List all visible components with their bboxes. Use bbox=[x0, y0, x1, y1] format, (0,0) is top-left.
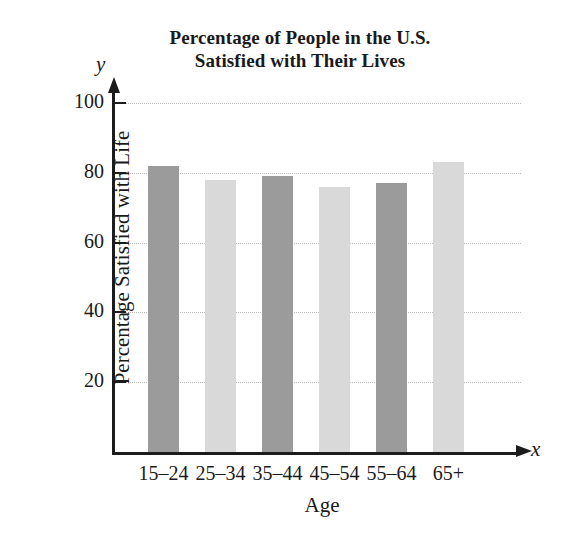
y-tick-label: 40 bbox=[48, 299, 104, 322]
x-axis-line bbox=[112, 452, 521, 455]
bar bbox=[376, 183, 407, 452]
chart-title: Percentage of People in the U.S. Satisfi… bbox=[120, 26, 480, 72]
x-tick-label: 65+ bbox=[414, 462, 484, 485]
bar bbox=[319, 187, 350, 452]
chart-title-line-1: Percentage of People in the U.S. bbox=[120, 26, 480, 49]
y-tick-label: 60 bbox=[48, 230, 104, 253]
bar bbox=[262, 176, 293, 452]
y-tick-label: 20 bbox=[48, 369, 104, 392]
y-tick-label: 80 bbox=[48, 160, 104, 183]
chart-title-line-2: Satisfied with Their Lives bbox=[120, 49, 480, 72]
bar bbox=[148, 166, 179, 452]
y-axis-letter: y bbox=[96, 52, 105, 77]
x-axis-letter: x bbox=[531, 437, 540, 462]
y-axis-title: Percentage Satisfied with Life bbox=[110, 23, 135, 493]
bars-group bbox=[112, 70, 524, 455]
chart-figure: Percentage of People in the U.S. Satisfi… bbox=[0, 0, 573, 548]
x-axis-arrow-icon bbox=[516, 445, 532, 457]
plot-area: 20406080100 15–2425–3435–4445–5455–6465+… bbox=[112, 70, 524, 455]
y-tick-label: 100 bbox=[48, 90, 104, 113]
bar bbox=[205, 180, 236, 452]
bar bbox=[433, 162, 464, 452]
x-axis-title: Age bbox=[222, 493, 422, 518]
